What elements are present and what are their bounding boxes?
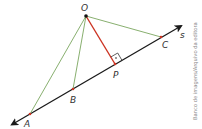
label-P: P bbox=[113, 70, 119, 80]
point-P-marker bbox=[114, 63, 117, 66]
point-O-marker bbox=[84, 14, 88, 18]
label-C: C bbox=[162, 40, 169, 50]
label-B: B bbox=[70, 95, 76, 105]
right-angle-dot bbox=[115, 57, 117, 59]
line-s bbox=[30, 26, 181, 114]
point-C-marker bbox=[160, 36, 163, 39]
point-A-marker bbox=[29, 113, 32, 116]
geometry-diagram: O A B P C s Banco de imagens/Arquivo da … bbox=[0, 0, 202, 129]
image-credit: Banco de imagens/Arquivo da editora bbox=[192, 22, 199, 120]
label-s: s bbox=[180, 30, 185, 40]
label-A: A bbox=[23, 119, 30, 129]
label-O: O bbox=[81, 3, 88, 13]
point-B-marker bbox=[72, 88, 75, 91]
